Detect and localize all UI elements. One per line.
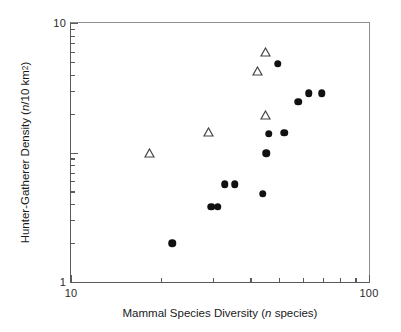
- y-axis-title-prefix: Hunter-Gatherer Density (: [19, 111, 31, 243]
- plot-area: 0.111010100: [70, 22, 370, 283]
- y-axis-tick-label: 10: [53, 17, 66, 29]
- y-axis-title-suffix: ): [19, 62, 31, 66]
- data-point-filled-circle: [294, 98, 302, 106]
- x-axis-minor-tick: [250, 278, 251, 282]
- data-point-filled-circle: [221, 180, 229, 188]
- x-axis-minor-tick: [279, 278, 280, 282]
- y-axis-minor-tick: [71, 75, 75, 76]
- y-axis-minor-tick: [71, 29, 75, 30]
- x-axis-title-suffix: species): [271, 307, 317, 319]
- x-axis-minor-tick: [161, 278, 162, 282]
- y-axis-minor-tick: [71, 204, 75, 205]
- data-point-filled-circle: [169, 239, 177, 247]
- x-axis-title: Mammal Species Diversity (n species): [70, 307, 370, 319]
- data-point-filled-circle: [280, 129, 288, 137]
- y-axis-minor-tick: [71, 43, 75, 44]
- x-axis-minor-tick: [303, 278, 304, 282]
- x-axis-title-prefix: Mammal Species Diversity (: [123, 307, 266, 319]
- y-axis-minor-tick: [71, 158, 75, 159]
- x-axis-major-tick: [71, 275, 72, 282]
- x-axis-minor-tick: [323, 278, 324, 282]
- y-axis-major-tick: 0.1: [71, 282, 78, 283]
- x-axis-minor-tick: [355, 278, 356, 282]
- x-axis-tick-label: 10: [65, 287, 78, 299]
- data-point-filled-circle: [305, 90, 313, 98]
- data-point-filled-circle: [262, 149, 270, 157]
- y-axis-minor-tick: [71, 165, 75, 166]
- y-axis-minor-tick: [71, 191, 75, 192]
- x-axis-tick-label: 100: [360, 287, 379, 299]
- y-axis-title: Hunter-Gatherer Density (n/10 km2): [16, 22, 34, 283]
- y-axis-title-italic-n: n: [19, 105, 31, 111]
- x-axis-minor-tick: [213, 278, 214, 282]
- y-axis-minor-tick: [71, 36, 75, 37]
- y-axis-major-tick: 10: [71, 23, 78, 24]
- x-axis-minor-tick: [340, 278, 341, 282]
- data-point-filled-circle: [265, 130, 273, 138]
- y-axis-minor-tick: [71, 62, 75, 63]
- data-point-filled-circle: [274, 60, 282, 68]
- data-point-filled-circle: [318, 90, 326, 98]
- y-axis-title-superscript: 2: [21, 66, 30, 71]
- data-point-filled-circle: [214, 203, 222, 211]
- y-axis-minor-tick: [71, 91, 75, 92]
- y-axis-minor-tick: [71, 114, 75, 115]
- x-axis-major-tick: [369, 275, 370, 282]
- scatter-plot-figure: 0.111010100 Hunter-Gatherer Density (n/1…: [0, 0, 401, 332]
- data-point-filled-circle: [259, 190, 267, 198]
- y-axis-title-mid: /10 km: [19, 70, 31, 105]
- y-axis-major-tick: 1: [71, 153, 78, 154]
- y-axis-minor-tick: [71, 181, 75, 182]
- y-axis-minor-tick: [71, 220, 75, 221]
- data-point-filled-circle: [231, 180, 239, 188]
- y-axis-minor-tick: [71, 243, 75, 244]
- y-axis-minor-tick: [71, 173, 75, 174]
- y-axis-minor-tick: [71, 52, 75, 53]
